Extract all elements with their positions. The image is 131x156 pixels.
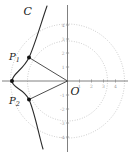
y-tick-label: -1 bbox=[60, 93, 65, 98]
y-tick-label: 3 bbox=[62, 37, 65, 42]
label-O: O bbox=[71, 85, 80, 98]
point-P2-dot bbox=[27, 98, 31, 102]
x-tick-label: 3 bbox=[102, 84, 105, 89]
y-tick-label: -4 bbox=[60, 135, 65, 140]
y-tick-label: 1 bbox=[62, 65, 65, 70]
x-tick-label: 4 bbox=[114, 84, 117, 89]
label-C: C bbox=[24, 5, 33, 18]
label-P2-sub: 2 bbox=[15, 100, 20, 108]
figure-container: 4321-1-2-3-4 1234 C P1 P2 O bbox=[0, 0, 131, 156]
x-tick-label: 2 bbox=[90, 84, 93, 89]
y-tick-label: -3 bbox=[60, 121, 65, 126]
y-tick-label: 2 bbox=[62, 51, 65, 56]
y-tick-label: 4 bbox=[62, 23, 65, 28]
label-P2: P2 bbox=[8, 95, 20, 108]
label-P1: P1 bbox=[8, 51, 20, 64]
curve-C bbox=[12, 6, 47, 149]
y-tick-label: -2 bbox=[60, 107, 65, 112]
point-P1-dot bbox=[27, 56, 31, 60]
label-P1-sub: 1 bbox=[16, 56, 20, 64]
vertex-dot bbox=[10, 79, 14, 83]
hyperbola-figure: 4321-1-2-3-4 1234 C P1 P2 O bbox=[0, 0, 131, 156]
